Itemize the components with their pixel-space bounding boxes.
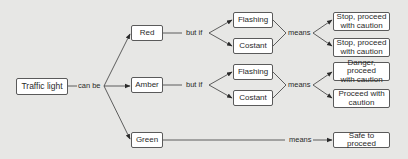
- node-label: Flashing: [238, 68, 268, 77]
- node-meaning-red-costant: Stop, proceed with caution: [333, 38, 390, 57]
- node-label: Amber: [135, 81, 159, 90]
- node-red: Red: [131, 25, 163, 41]
- node-label: Costant: [239, 94, 267, 103]
- node-red-flashing: Flashing: [233, 12, 273, 28]
- node-meaning-amber-costant: Proceed with caution: [333, 89, 390, 108]
- relation-but-if-red: but if: [186, 29, 202, 37]
- relation-means-red: means: [288, 29, 311, 37]
- node-amber: Amber: [131, 77, 163, 93]
- node-traffic-light: Traffic light: [16, 78, 68, 95]
- meaning-line: with caution: [340, 22, 382, 31]
- node-meaning-red-flashing: Stop, proceed with caution: [333, 12, 390, 31]
- node-green: Green: [131, 132, 163, 148]
- relation-means-green: means: [289, 136, 312, 144]
- meaning-line: with caution: [340, 48, 382, 57]
- node-label: Costant: [239, 42, 267, 51]
- meaning-line: caution: [349, 99, 375, 108]
- relation-means-amber: means: [288, 81, 311, 89]
- meaning-line: with caution: [340, 76, 382, 85]
- relation-but-if-amber: but if: [186, 81, 202, 89]
- node-label: Red: [140, 29, 155, 38]
- node-amber-flashing: Flashing: [233, 64, 273, 80]
- node-label: Green: [136, 136, 158, 145]
- relation-can-be: can be: [78, 82, 101, 90]
- node-label: Safe to proceed: [334, 132, 389, 149]
- meaning-line: Danger, proceed: [334, 59, 389, 76]
- node-meaning-amber-flashing: Danger, proceed with caution: [333, 62, 390, 81]
- node-red-costant: Costant: [233, 38, 273, 54]
- node-label: Traffic light: [21, 82, 62, 91]
- node-label: Flashing: [238, 16, 268, 25]
- node-amber-costant: Costant: [233, 90, 273, 106]
- node-meaning-green: Safe to proceed: [333, 132, 390, 148]
